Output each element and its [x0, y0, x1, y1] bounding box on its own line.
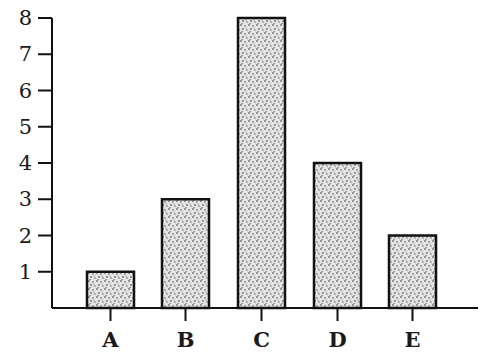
- x-axis: ABCDE: [52, 308, 478, 352]
- y-tick-label: 7: [19, 42, 32, 66]
- x-tick-label: D: [328, 327, 346, 352]
- bar-d: [314, 163, 361, 308]
- x-tick-label: E: [404, 327, 420, 352]
- y-tick-label: 6: [19, 79, 32, 103]
- bar-chart: 12345678 ABCDE: [0, 0, 482, 354]
- y-tick-label: 2: [19, 224, 32, 248]
- x-tick-label: B: [177, 327, 195, 352]
- bar-a: [87, 272, 134, 308]
- bars: [87, 18, 436, 308]
- x-tick-label: A: [101, 327, 119, 352]
- y-tick-label: 1: [19, 260, 32, 284]
- y-tick-label: 5: [19, 115, 32, 139]
- y-tick-label: 4: [19, 151, 32, 175]
- bar-c: [238, 18, 285, 308]
- x-tick-label: C: [253, 327, 270, 352]
- y-tick-label: 3: [19, 187, 32, 211]
- bar-b: [162, 199, 209, 308]
- y-axis: 12345678: [19, 6, 52, 308]
- bar-e: [389, 236, 436, 309]
- y-tick-label: 8: [19, 6, 32, 30]
